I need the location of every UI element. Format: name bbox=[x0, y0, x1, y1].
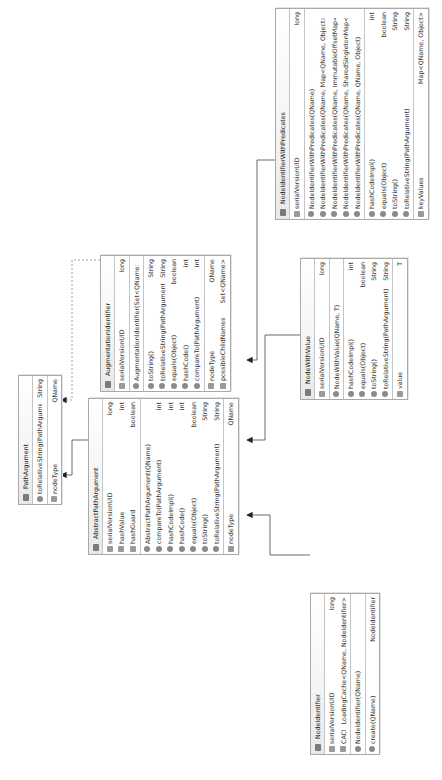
member-name: NodeIdentifierWithPredicates(QName, QNam… bbox=[352, 18, 364, 209]
class-header[interactable]: AugmentationIdentifier bbox=[101, 256, 115, 391]
field-row[interactable]: serialVersionUIDlong bbox=[291, 9, 303, 219]
method-icon bbox=[403, 211, 409, 217]
member-type: boolean bbox=[188, 402, 200, 427]
member-name: NodeWithValue(QName, T) bbox=[331, 268, 343, 389]
method-row[interactable]: hashCodeImpl()int bbox=[165, 399, 177, 554]
field-row[interactable]: hashValueint bbox=[116, 399, 128, 554]
class-augmentation-identifier[interactable]: AugmentationIdentifierserialVersionUIDlo… bbox=[100, 255, 231, 392]
field-row[interactable]: valueT bbox=[394, 259, 406, 399]
method-row[interactable]: toRelativeString(PathArgument)String bbox=[380, 259, 392, 399]
class-section: toRelativeString(PathArgument)String bbox=[33, 376, 48, 504]
method-row[interactable]: hashCode()int bbox=[180, 256, 192, 391]
member-name: create(QName) bbox=[367, 648, 379, 744]
method-row[interactable]: NodeIdentifier(QName) bbox=[352, 594, 364, 754]
method-icon bbox=[392, 211, 398, 217]
field-row[interactable]: nodeTypeQName bbox=[206, 256, 218, 391]
method-row[interactable]: hashCode()int bbox=[176, 399, 188, 554]
method-row[interactable]: toRelativeString(PathArgument)String bbox=[157, 256, 169, 391]
class-name: NodeWithValue bbox=[304, 336, 311, 384]
field-row[interactable]: CACHELoadingCache<QName, NodeIdentifier> bbox=[338, 594, 350, 754]
method-row[interactable]: NodeIdentifierWithPredicates(QName, QNam… bbox=[352, 9, 364, 219]
method-row[interactable]: NodeIdentifierWithPredicates(QName) bbox=[306, 9, 318, 219]
class-node-identifier[interactable]: NodeIdentifierserialVersionUIDlongCACHEL… bbox=[310, 593, 380, 755]
class-section: serialVersionUIDlonghashValueinthashGuar… bbox=[103, 399, 141, 554]
class-header[interactable]: AbstractPathArgument bbox=[89, 399, 103, 554]
class-header[interactable]: NodeIdentifierWithPredicates bbox=[276, 9, 290, 219]
method-row[interactable]: equals(Object)boolean bbox=[378, 9, 390, 219]
method-row[interactable]: NodeIdentifierWithPredicates(QName, Shar… bbox=[340, 9, 352, 219]
method-icon bbox=[213, 546, 219, 552]
member-type: int bbox=[180, 259, 192, 267]
method-row[interactable]: create(QName)NodeIdentifier bbox=[367, 594, 379, 754]
field-icon bbox=[107, 546, 113, 552]
method-icon bbox=[167, 546, 173, 552]
method-icon bbox=[182, 383, 188, 389]
method-row[interactable]: toRelativeString(PathArgument)String bbox=[34, 376, 46, 504]
method-icon bbox=[382, 391, 388, 397]
field-row[interactable]: possibleChildNamesSet<QName> bbox=[217, 256, 229, 391]
field-icon bbox=[208, 383, 214, 389]
member-name: toRelativeString(PathArgument) bbox=[380, 287, 392, 389]
method-row[interactable]: toString()String bbox=[389, 9, 401, 219]
member-name: serialVersionUID bbox=[116, 279, 128, 381]
method-row[interactable]: equals(Object)boolean bbox=[168, 256, 180, 391]
method-row[interactable]: equals(Object)boolean bbox=[188, 399, 200, 554]
class-abstract-path-argument[interactable]: AbstractPathArgumentserialVersionUIDlong… bbox=[88, 398, 239, 555]
method-row[interactable]: compareTo(PathArgument)int bbox=[153, 399, 165, 554]
class-icon bbox=[105, 381, 111, 388]
method-row[interactable]: toRelativeString(PathArgument)String bbox=[401, 9, 413, 219]
member-name: hashCodeImpl() bbox=[366, 26, 378, 209]
class-icon bbox=[315, 744, 321, 751]
class-section: NodeIdentifier(QName) bbox=[351, 594, 366, 754]
class-icon bbox=[93, 544, 99, 551]
member-name: NodeIdentifierWithPredicates(QName) bbox=[306, 18, 318, 209]
class-node-with-value[interactable]: NodeWithValueserialVersionUIDlongNodeWit… bbox=[300, 258, 408, 400]
class-path-argument[interactable]: PathArgumenttoRelativeString(PathArgumen… bbox=[18, 375, 62, 505]
field-row[interactable]: nodeTypeQName bbox=[225, 399, 237, 554]
member-type: String bbox=[380, 262, 392, 281]
field-row[interactable]: keyValuesMap<QName, Object> bbox=[415, 9, 427, 219]
class-header[interactable]: NodeIdentifier bbox=[311, 594, 325, 754]
member-type: String bbox=[34, 379, 46, 398]
field-row[interactable]: hashGuardboolean bbox=[127, 399, 139, 554]
member-name: serialVersionUID bbox=[291, 32, 303, 209]
member-type: int bbox=[165, 402, 177, 410]
member-type: Map<QName, Object> bbox=[415, 12, 427, 84]
class-header[interactable]: PathArgument bbox=[19, 376, 33, 504]
edge-niwp-to-abstract bbox=[247, 160, 275, 360]
field-icon bbox=[118, 546, 124, 552]
method-row[interactable]: toString()String bbox=[145, 256, 157, 391]
class-section: nodeTypeQName bbox=[224, 399, 238, 554]
class-node-identifier-with-predicates[interactable]: NodeIdentifierWithPredicatesserialVersio… bbox=[275, 8, 429, 220]
method-row[interactable]: hashCodeImpl()int bbox=[366, 9, 378, 219]
member-name: toRelativeString(PathArgument) bbox=[157, 284, 169, 381]
class-section: NodeIdentifierWithPredicates(QName)NodeI… bbox=[305, 9, 366, 219]
class-icon bbox=[305, 389, 311, 396]
method-row[interactable]: hashCodeImpl()int bbox=[345, 259, 357, 399]
class-header[interactable]: NodeWithValue bbox=[301, 259, 315, 399]
member-type: String bbox=[199, 402, 211, 421]
field-row[interactable]: nodeTypeQName bbox=[49, 376, 61, 504]
method-row[interactable]: NodeIdentifierWithPredicates(QName, Immu… bbox=[329, 9, 341, 219]
member-name: toString() bbox=[368, 287, 380, 389]
field-row[interactable]: serialVersionUIDlong bbox=[116, 256, 128, 391]
class-section: serialVersionUIDlong bbox=[290, 9, 305, 219]
class-section: nodeTypeQName bbox=[48, 376, 62, 504]
method-row[interactable]: AbstractPathArgument(QName) bbox=[142, 399, 154, 554]
method-row[interactable]: NodeIdentifierWithPredicates(QName, Map<… bbox=[317, 9, 329, 219]
method-row[interactable]: toString()String bbox=[199, 399, 211, 554]
field-row[interactable]: serialVersionUIDlong bbox=[104, 399, 116, 554]
method-row[interactable]: toString()String bbox=[368, 259, 380, 399]
member-type: boolean bbox=[127, 402, 139, 427]
method-row[interactable]: equals(Object)boolean bbox=[357, 259, 369, 399]
method-row[interactable]: NodeWithValue(QName, T) bbox=[331, 259, 343, 399]
member-name: nodeType bbox=[49, 409, 61, 494]
field-row[interactable]: serialVersionUIDlong bbox=[326, 594, 338, 754]
member-name: toString() bbox=[199, 427, 211, 544]
method-row[interactable]: toRelativeString(PathArgument)String bbox=[211, 399, 223, 554]
method-row[interactable]: AugmentationIdentifier(Set<QName>) bbox=[131, 256, 143, 391]
member-type: int bbox=[366, 12, 378, 20]
method-icon bbox=[171, 383, 177, 389]
field-row[interactable]: serialVersionUIDlong bbox=[316, 259, 328, 399]
method-row[interactable]: compareTo(PathArgument)int bbox=[191, 256, 203, 391]
